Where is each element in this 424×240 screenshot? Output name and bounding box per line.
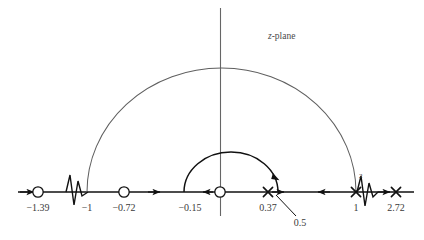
zero-marker-minus-1p39 — [33, 187, 43, 197]
multiplicity-label-2: 2 — [359, 171, 363, 182]
tick-label-minus-1: −1 — [82, 202, 93, 213]
plane-label: z-plane — [268, 31, 295, 42]
callout-label-0p5: 0.5 — [294, 217, 307, 228]
zero-marker-minus-0p15 — [215, 187, 225, 197]
inner-locus-arc — [184, 152, 278, 192]
tick-label-0p37: 0.37 — [259, 202, 277, 213]
root-locus-canvas — [0, 0, 424, 240]
outer-locus-arc — [87, 68, 356, 192]
z-plane-root-locus-figure: z-plane −1.39 −1 −0.72 −0.15 0.37 1 2.72… — [0, 0, 424, 240]
tick-label-minus-0p15: −0.15 — [178, 202, 201, 213]
tick-label-2p72: 2.72 — [387, 202, 405, 213]
zigzag-left-marker — [66, 175, 88, 205]
tick-label-1: 1 — [354, 202, 359, 213]
callout-leader-line — [276, 195, 296, 216]
tick-label-minus-0p72: −0.72 — [112, 202, 135, 213]
tick-label-minus-1p39: −1.39 — [26, 202, 49, 213]
zero-marker-minus-0p72 — [119, 187, 129, 197]
